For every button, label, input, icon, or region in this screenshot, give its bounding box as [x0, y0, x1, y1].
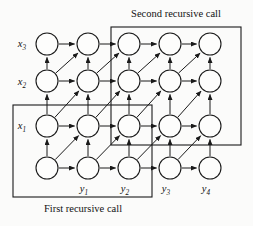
graph-node-r2c1: [77, 115, 99, 137]
caption-first-recursive-call: First recursive call: [44, 203, 122, 214]
edge-arrow-diagonal: [137, 136, 160, 160]
edge-arrow-diagonal: [178, 136, 201, 160]
column-label-y4: y4: [201, 183, 211, 197]
graph-node-r1c2: [118, 70, 140, 92]
graph-node-r3c0: [36, 157, 58, 179]
edge-arrow-diagonal: [96, 136, 119, 160]
graph-node-r0c3: [159, 33, 181, 55]
row-label-x1: x1: [17, 120, 26, 134]
graph-node-r3c1: [77, 157, 99, 179]
column-label-y2: y2: [120, 183, 130, 197]
graph-node-r2c2: [118, 115, 140, 137]
graph-node-r3c3: [159, 157, 181, 179]
graph-node-r3c2: [118, 157, 140, 179]
recursion-lattice-diagram: x3x2x1y1y2y3y4 Second recursive callFirs…: [0, 0, 253, 226]
graph-node-r0c1: [77, 33, 99, 55]
graph-node-r1c1: [77, 70, 99, 92]
column-label-y3: y3: [161, 183, 171, 197]
graph-node-r0c0: [36, 33, 58, 55]
edge-arrow-diagonal: [96, 91, 120, 117]
graph-node-r1c3: [159, 70, 181, 92]
graph-node-r3c4: [199, 157, 221, 179]
graph-node-r2c3: [159, 115, 181, 137]
edges-group: [47, 44, 210, 168]
graph-node-r0c2: [118, 33, 140, 55]
graph-node-r0c4: [199, 33, 221, 55]
graph-node-r2c4: [199, 115, 221, 137]
column-label-y1: y1: [79, 183, 88, 197]
edge-arrow-diagonal: [137, 91, 161, 117]
row-label-x2: x2: [17, 76, 27, 90]
diagram-canvas: x3x2x1y1y2y3y4 Second recursive callFirs…: [0, 0, 253, 226]
edge-arrow-diagonal: [138, 53, 160, 73]
edge-arrow-diagonal: [97, 53, 119, 73]
graph-node-r1c0: [36, 70, 58, 92]
graph-node-r2c0: [36, 115, 58, 137]
edge-arrow-diagonal: [55, 91, 79, 117]
edge-arrow-diagonal: [179, 53, 201, 73]
row-label-x3: x3: [17, 38, 27, 52]
edge-arrow-diagonal: [56, 53, 78, 73]
edge-arrow-diagonal: [178, 91, 201, 117]
edge-arrow-diagonal: [55, 136, 78, 160]
caption-second-recursive-call: Second recursive call: [131, 8, 221, 19]
graph-node-r1c4: [199, 70, 221, 92]
